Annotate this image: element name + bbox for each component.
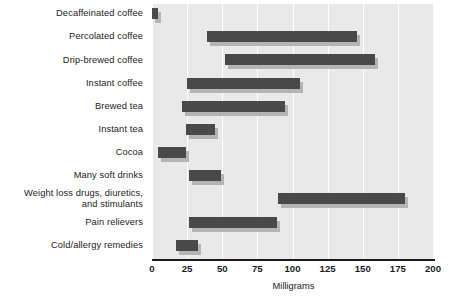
bar-row — [152, 147, 433, 168]
y-axis-label-10: Cold/allergy remedies — [51, 240, 143, 251]
y-axis-label-7: Many soft drinks — [74, 170, 143, 181]
x-tick-50: 50 — [217, 263, 228, 274]
x-axis-tick-labels: 0255075100125150175200 — [0, 263, 457, 277]
bar-row — [152, 8, 433, 29]
bar — [278, 193, 404, 204]
y-axis-label-4: Brewed tea — [95, 101, 143, 112]
x-tick-200: 200 — [425, 263, 441, 274]
x-tick-175: 175 — [390, 263, 406, 274]
x-tick-150: 150 — [355, 263, 371, 274]
x-tick-100: 100 — [284, 263, 300, 274]
bar-row — [152, 240, 433, 261]
bar-row — [152, 124, 433, 145]
bar — [186, 124, 216, 135]
y-axis-label-3: Instant coffee — [86, 78, 143, 89]
x-tick-0: 0 — [149, 263, 154, 274]
bar — [182, 101, 286, 112]
bar — [207, 31, 357, 42]
bar — [176, 240, 198, 251]
x-tick-25: 25 — [182, 263, 193, 274]
bar-row — [152, 101, 433, 122]
gridline-200 — [433, 4, 434, 259]
y-axis-label-0: Decaffeinated coffee — [56, 8, 143, 19]
y-axis-label-6: Cocoa — [116, 147, 143, 158]
y-axis-label-2: Drip-brewed coffee — [63, 55, 143, 66]
x-tick-75: 75 — [252, 263, 263, 274]
bar-row — [152, 193, 433, 214]
x-tick-125: 125 — [320, 263, 336, 274]
x-axis-line — [152, 259, 435, 261]
y-axis-label-9: Pain relievers — [85, 217, 143, 228]
y-axis-label-8: Weight loss drugs, diuretics, and stimul… — [24, 188, 143, 209]
bar-row — [152, 170, 433, 191]
bar — [189, 217, 278, 228]
bar-row — [152, 78, 433, 99]
bar — [189, 170, 221, 181]
caffeine-range-chart: Decaffeinated coffeePercolated coffeeDri… — [0, 0, 457, 301]
bar-row — [152, 31, 433, 52]
bar-row — [152, 217, 433, 238]
bar — [152, 8, 158, 19]
bar — [187, 78, 299, 89]
plot-area — [152, 4, 433, 259]
y-axis-category-labels: Decaffeinated coffeePercolated coffeeDri… — [0, 0, 149, 259]
bar — [158, 147, 186, 158]
bar-row — [152, 54, 433, 75]
x-axis-title: Milligrams — [152, 281, 435, 291]
y-axis-label-5: Instant tea — [98, 124, 143, 135]
y-axis-label-1: Percolated coffee — [69, 31, 143, 42]
bar — [225, 54, 375, 65]
